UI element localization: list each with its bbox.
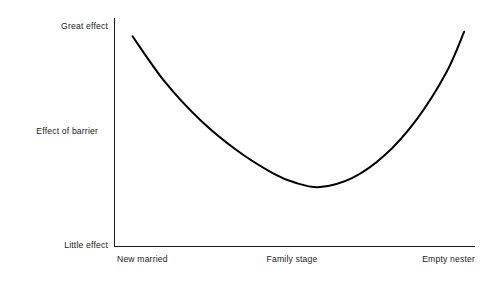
effect-of-barrier-curve — [133, 32, 465, 187]
y-axis-top-label: Great effect — [0, 21, 108, 32]
y-axis-bottom-label: Little effect — [0, 240, 108, 251]
y-axis-title: Effect of barrier — [0, 126, 98, 137]
x-axis-label-family-stage: Family stage — [232, 254, 352, 265]
x-axis-label-new-married: New married — [117, 254, 168, 265]
chart-figure: Great effect Effect of barrier Little ef… — [0, 0, 482, 281]
x-axis-label-empty-nester: Empty nester — [355, 254, 475, 265]
chart-plot-area — [0, 0, 482, 281]
